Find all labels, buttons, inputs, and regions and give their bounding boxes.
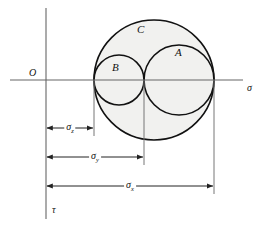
subscript-y: y (96, 156, 99, 163)
circle-c-label: C (137, 24, 144, 35)
dimension-label-sigma-z: σz (64, 122, 75, 135)
sigma-axis-label: σ (247, 83, 252, 93)
subscript-z: z (71, 127, 74, 134)
mohr-circle-figure: O σ τ C A B σz σy σx (0, 0, 268, 227)
dimension-label-sigma-x: σx (124, 180, 136, 193)
circle-a-label: A (175, 47, 182, 58)
dimension-label-sigma-y: σy (89, 151, 101, 164)
origin-label: O (29, 68, 36, 78)
diagram-canvas (0, 0, 268, 227)
subscript-x: x (131, 185, 134, 192)
circle-b-label: B (112, 62, 119, 73)
tau-axis-label: τ (52, 205, 56, 215)
